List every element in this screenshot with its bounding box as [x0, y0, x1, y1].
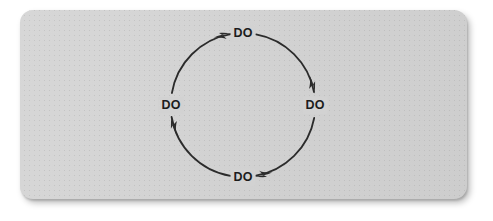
cycle-node-top: DO: [231, 25, 256, 42]
page-root: DO DO DO DO: [0, 0, 493, 221]
cycle-node-left: DO: [159, 97, 184, 114]
cycle-node-bottom: DO: [231, 169, 256, 186]
cycle-node-right: DO: [303, 97, 328, 114]
